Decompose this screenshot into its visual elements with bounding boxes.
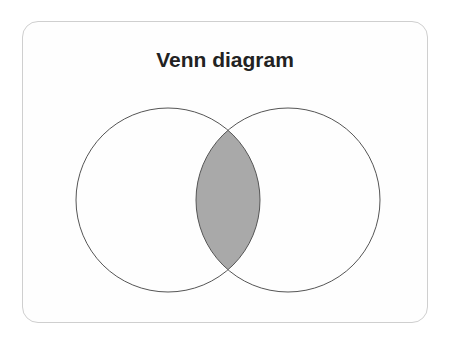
- venn-diagram: [0, 0, 450, 339]
- intersection-region: [196, 108, 380, 292]
